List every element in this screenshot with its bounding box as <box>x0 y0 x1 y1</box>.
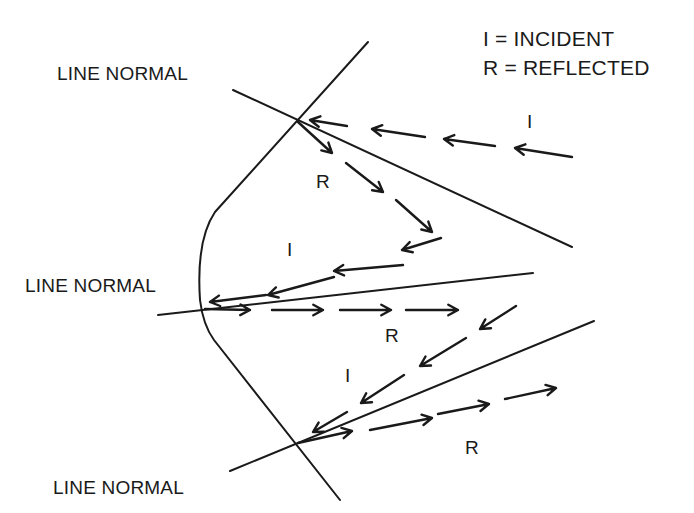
arrow-icon <box>515 144 572 157</box>
label-normal-top: LINE NORMAL <box>57 64 188 83</box>
arrow-icon <box>370 415 432 430</box>
arrow-icon <box>310 116 347 127</box>
arrow-icon <box>396 200 432 232</box>
arrow-icon <box>420 338 466 366</box>
arrow-icon <box>268 277 334 298</box>
line-normals <box>158 90 594 471</box>
incident-bottom-rays <box>313 306 516 432</box>
label-incident-top: I <box>527 112 532 131</box>
arrow-icon <box>334 265 403 276</box>
ray-arrows <box>205 116 572 443</box>
normal-top <box>233 90 572 247</box>
reflected-bottom-rays <box>298 385 556 443</box>
arrow-icon <box>340 305 391 316</box>
arrow-icon <box>298 428 352 443</box>
normal-bottom <box>230 321 594 471</box>
arrow-icon <box>438 401 489 414</box>
label-reflected-bottom: R <box>465 438 479 457</box>
incident-top-rays <box>310 116 572 157</box>
reflected-middle-rays <box>205 305 458 316</box>
arrow-icon <box>372 125 425 137</box>
arrow-icon <box>406 305 458 316</box>
label-normal-bottom: LINE NORMAL <box>53 478 184 497</box>
arrow-icon <box>272 305 323 316</box>
label-incident-middle: I <box>287 240 292 259</box>
arrow-icon <box>480 306 516 329</box>
label-normal-middle: LINE NORMAL <box>25 276 156 295</box>
arrow-icon <box>505 385 556 399</box>
label-reflected-top: R <box>316 172 330 191</box>
label-incident-bottom: I <box>345 366 350 385</box>
arrow-icon <box>205 305 250 316</box>
legend-reflected: R = REFLECTED <box>483 57 650 78</box>
arrow-icon <box>361 375 404 403</box>
arrow-icon <box>444 135 495 146</box>
label-reflected-middle: R <box>385 326 399 345</box>
arrow-icon <box>346 163 383 192</box>
arrow-icon <box>402 238 441 252</box>
arrow-icon <box>298 122 332 153</box>
legend-incident: I = INCIDENT <box>483 28 614 49</box>
